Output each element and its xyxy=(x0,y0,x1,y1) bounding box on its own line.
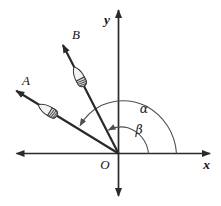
beta-label: β xyxy=(134,122,142,137)
x-axis-label: x xyxy=(202,157,210,172)
y-axis-label: y xyxy=(102,12,111,27)
ray-a-label: A xyxy=(21,73,30,88)
rocket-b-icon xyxy=(70,65,88,89)
rocket-a-icon xyxy=(36,101,59,120)
coordinate-diagram: y x O A B α β xyxy=(0,0,221,206)
alpha-label: α xyxy=(140,101,149,116)
figure-canvas: y x O A B α β xyxy=(0,0,221,206)
origin-label: O xyxy=(100,157,110,172)
ray-b-label: B xyxy=(72,27,80,42)
